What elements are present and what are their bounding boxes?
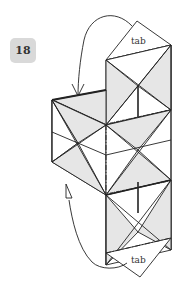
origami-diagram: tab tab [0, 0, 181, 291]
top-tab-label: tab [131, 36, 146, 46]
bottom-tab-label: tab [131, 255, 146, 265]
hollow-arrowhead-up-icon [66, 184, 72, 198]
